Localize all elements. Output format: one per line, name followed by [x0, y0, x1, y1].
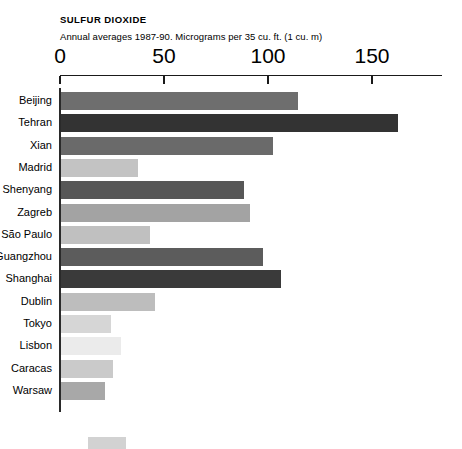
bar-row: Caracas: [0, 358, 462, 380]
bar: [61, 181, 244, 199]
x-axis: 050100150: [0, 44, 462, 80]
bar: [61, 226, 150, 244]
category-label: Zagreb: [0, 203, 52, 221]
bar-row: Beijing: [0, 90, 462, 112]
chart-title: SULFUR DIOXIDE: [60, 14, 147, 25]
x-tick-label: 150: [354, 44, 389, 68]
bar: [61, 315, 111, 333]
category-label: Beijing: [0, 91, 52, 109]
bar: [61, 248, 263, 266]
bar-row: Tehran: [0, 112, 462, 134]
bar-row: São Paulo: [0, 224, 462, 246]
x-tick-label: 0: [54, 44, 66, 68]
category-label: Madrid: [0, 158, 52, 176]
chart-subtitle: Annual averages 1987-90. Micrograms per …: [60, 31, 322, 42]
bar: [61, 159, 138, 177]
category-label: Xian: [0, 136, 52, 154]
bar: [61, 204, 250, 222]
x-axis-line: [60, 75, 442, 76]
bar-row: Tokyo: [0, 313, 462, 335]
category-label: Tehran: [0, 113, 52, 131]
x-tick-label: 100: [250, 44, 285, 68]
bar-row: Xian: [0, 135, 462, 157]
bar-row: Guangzhou: [0, 246, 462, 268]
category-label: Guangzhou: [0, 247, 52, 265]
x-tick-mark: [371, 76, 372, 84]
bar-row: Shanghai: [0, 268, 462, 290]
bar: [61, 92, 298, 110]
category-label: Warsaw: [0, 381, 52, 399]
category-label: Shenyang: [0, 180, 52, 198]
x-tick-mark: [59, 76, 60, 84]
category-label: Dublin: [0, 292, 52, 310]
bar: [61, 114, 398, 132]
plot-area: BeijingTehranXianMadridShenyangZagrebSão…: [0, 88, 462, 418]
bar: [61, 337, 121, 355]
legend-swatch: [88, 437, 126, 449]
category-label: São Paulo: [0, 225, 52, 243]
bar-row: Dublin: [0, 291, 462, 313]
bar: [61, 137, 273, 155]
category-label: Shanghai: [0, 269, 52, 287]
category-label: Tokyo: [0, 314, 52, 332]
bar: [61, 382, 105, 400]
bar: [61, 360, 113, 378]
bar-row: Madrid: [0, 157, 462, 179]
bar-row: Lisbon: [0, 335, 462, 357]
bar-row: Zagreb: [0, 202, 462, 224]
bar: [61, 270, 281, 288]
bar-row: Warsaw: [0, 380, 462, 402]
x-tick-mark: [163, 76, 164, 84]
x-tick-mark: [267, 76, 268, 84]
bar-row: Shenyang: [0, 179, 462, 201]
category-label: Lisbon: [0, 336, 52, 354]
x-tick-label: 50: [152, 44, 175, 68]
bar: [61, 293, 155, 311]
category-label: Caracas: [0, 359, 52, 377]
